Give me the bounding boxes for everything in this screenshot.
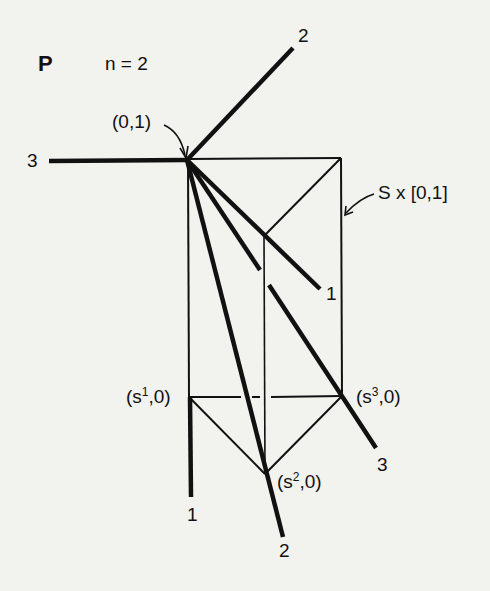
ray-3-lower xyxy=(269,285,376,448)
vertex-s3-label: (s3,0) xyxy=(356,386,401,406)
vertex-rest: ,0) xyxy=(379,386,401,407)
base-s1-s3-solid-right xyxy=(271,396,342,397)
prism-left-edge xyxy=(188,160,189,397)
diagram-canvas: P n = 2 (0,1) 2 3 S x [0,1] 1 (s1,0) (s3… xyxy=(0,0,490,591)
vertex-base: s xyxy=(283,471,293,492)
vertex-s2-label: (s2,0) xyxy=(277,471,322,491)
prism-label: S x [0,1] xyxy=(378,183,448,202)
prism-top-diagonal xyxy=(264,158,341,236)
ray-1 xyxy=(187,160,320,289)
apex-label: (0,1) xyxy=(112,112,151,131)
vertex-rest: ,0) xyxy=(149,386,171,407)
ray-left-3 xyxy=(49,160,187,161)
vertex-base: s xyxy=(362,386,372,407)
prism-middle-vertical xyxy=(264,236,265,474)
prism-right-edge xyxy=(341,158,342,396)
ray-bottom-1 xyxy=(190,397,191,497)
ray-top-2-label: 2 xyxy=(298,26,309,45)
base-s1-s2 xyxy=(190,398,265,474)
ray-bottom-1-label: 1 xyxy=(187,505,198,524)
ray-3-upper xyxy=(187,160,260,270)
ray-top-2 xyxy=(187,48,293,160)
prism-arrow xyxy=(346,194,374,213)
vertex-base: s xyxy=(132,386,142,407)
vertex-sup: 2 xyxy=(293,470,300,484)
base-s3-s2 xyxy=(265,396,342,474)
ray-bottom-2-label: 2 xyxy=(279,541,290,560)
vertex-sup: 3 xyxy=(372,385,379,399)
prism-diagram xyxy=(0,0,490,591)
parameter-label: n = 2 xyxy=(105,54,148,73)
ray-left-3-label: 3 xyxy=(27,151,38,170)
ray-1-label: 1 xyxy=(326,284,337,303)
vertex-rest: ,0) xyxy=(300,471,322,492)
vertex-sup: 1 xyxy=(142,385,149,399)
prism-top-edge xyxy=(187,158,341,159)
ray-bottom-2 xyxy=(187,160,283,537)
ray-3-label: 3 xyxy=(377,455,388,474)
panel-label: P xyxy=(38,53,53,75)
vertex-s1-label: (s1,0) xyxy=(126,386,171,406)
